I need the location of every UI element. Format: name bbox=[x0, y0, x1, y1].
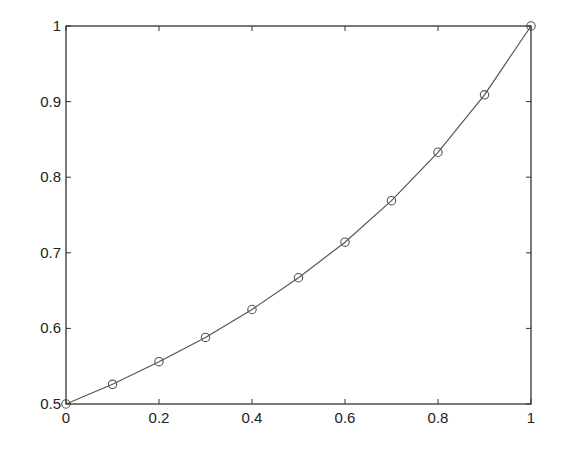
x-tick-label: 0 bbox=[62, 409, 70, 426]
x-tick-label: 1 bbox=[527, 409, 535, 426]
x-tick-label: 0.2 bbox=[149, 409, 170, 426]
x-tick-label: 0.6 bbox=[335, 409, 356, 426]
y-tick-label: 0.8 bbox=[40, 168, 61, 185]
figure-background bbox=[0, 0, 561, 449]
x-tick-label: 0.4 bbox=[242, 409, 263, 426]
y-tick-label: 0.5 bbox=[40, 395, 61, 412]
y-tick-label: 0.6 bbox=[40, 319, 61, 336]
y-tick-label: 0.7 bbox=[40, 244, 61, 261]
y-tick-label: 1 bbox=[53, 17, 61, 34]
x-tick-label: 0.8 bbox=[428, 409, 449, 426]
y-tick-label: 0.9 bbox=[40, 93, 61, 110]
line-chart: 00.20.40.60.81 0.50.60.70.80.91 bbox=[0, 0, 561, 449]
